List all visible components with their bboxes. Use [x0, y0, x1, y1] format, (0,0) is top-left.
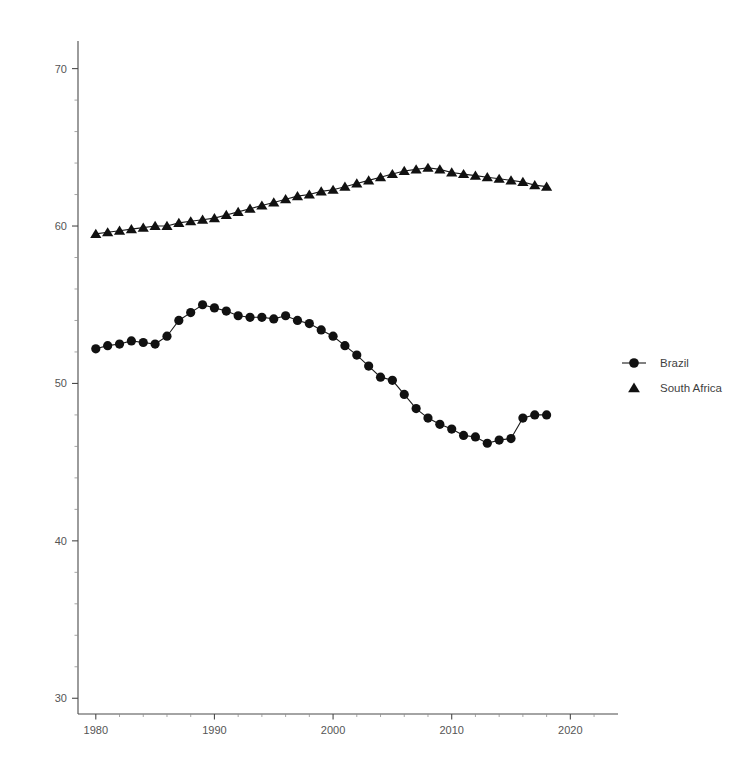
- legend-item-brazil[interactable]: Brazil: [622, 357, 689, 369]
- circle-marker: [495, 436, 504, 445]
- circle-marker: [317, 325, 326, 334]
- circle-marker: [400, 390, 409, 399]
- circle-marker: [518, 413, 527, 422]
- circle-marker: [91, 344, 100, 353]
- circle-marker: [447, 424, 456, 433]
- y-axis-tick-label: 40: [55, 535, 67, 547]
- circle-marker: [423, 413, 432, 422]
- circle-marker: [530, 410, 539, 419]
- circle-marker: [198, 300, 207, 309]
- x-axis-tick-label: 2010: [439, 724, 463, 736]
- circle-marker: [139, 338, 148, 347]
- circle-marker: [257, 313, 266, 322]
- circle-marker: [127, 336, 136, 345]
- circle-marker: [281, 311, 290, 320]
- circle-marker: [269, 314, 278, 323]
- ticks-layer: [72, 69, 594, 720]
- circle-marker: [471, 432, 480, 441]
- circle-marker: [151, 339, 160, 348]
- data-series-south-africa: [90, 163, 552, 238]
- triangle-marker: [422, 163, 433, 172]
- circle-marker: [103, 341, 112, 350]
- y-axis-tick-label: 30: [55, 692, 67, 704]
- x-axis-tick-label: 1990: [202, 724, 226, 736]
- legend-label: Brazil: [660, 357, 689, 369]
- legend-layer: BrazilSouth Africa: [622, 357, 723, 394]
- y-axis-tick-label: 70: [55, 63, 67, 75]
- x-axis-tick-label: 2020: [558, 724, 582, 736]
- circle-marker: [293, 316, 302, 325]
- circle-marker: [412, 404, 421, 413]
- y-axis-tick-label: 60: [55, 220, 67, 232]
- circle-marker: [542, 410, 551, 419]
- circle-marker: [245, 313, 254, 322]
- line-chart: 304050607019801990200020102020 BrazilSou…: [0, 0, 751, 773]
- legend-circle-icon: [629, 358, 639, 368]
- circle-marker: [376, 373, 385, 382]
- legend-label: South Africa: [660, 382, 723, 394]
- circle-marker: [364, 362, 373, 371]
- axes-layer: [78, 41, 618, 714]
- tick-labels-layer: 304050607019801990200020102020: [55, 63, 583, 736]
- legend-triangle-icon: [628, 383, 640, 393]
- x-axis-tick-label: 2000: [321, 724, 345, 736]
- series-layer: [90, 163, 552, 448]
- data-series-brazil: [91, 300, 551, 448]
- circle-marker: [483, 439, 492, 448]
- circle-marker: [222, 306, 231, 315]
- chart-container: 304050607019801990200020102020 BrazilSou…: [0, 0, 751, 773]
- circle-marker: [234, 311, 243, 320]
- circle-marker: [506, 434, 515, 443]
- circle-marker: [352, 351, 361, 360]
- circle-marker: [388, 376, 397, 385]
- circle-marker: [174, 316, 183, 325]
- circle-marker: [115, 339, 124, 348]
- legend-item-south-africa[interactable]: South Africa: [628, 382, 722, 394]
- y-axis-tick-label: 50: [55, 377, 67, 389]
- circle-marker: [186, 308, 195, 317]
- circle-marker: [459, 431, 468, 440]
- circle-marker: [340, 341, 349, 350]
- x-axis-tick-label: 1980: [84, 724, 108, 736]
- circle-marker: [435, 420, 444, 429]
- circle-marker: [162, 332, 171, 341]
- triangle-marker: [150, 221, 161, 230]
- circle-marker: [328, 332, 337, 341]
- circle-marker: [305, 319, 314, 328]
- circle-marker: [210, 303, 219, 312]
